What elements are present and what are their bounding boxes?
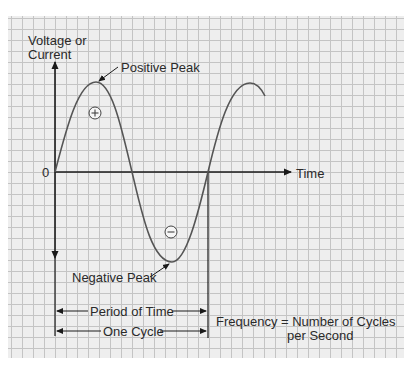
- y-axis-label-line2: Current: [28, 47, 71, 62]
- y-axis-label-line1: Voltage or: [28, 33, 87, 48]
- period-label: Period of Time: [90, 304, 174, 319]
- positive-peak-pointer: [99, 67, 118, 81]
- positive-peak-label: Positive Peak: [121, 60, 200, 75]
- frequency-label-line1: Frequency = Number of Cycles: [216, 314, 396, 329]
- time-axis-label: Time: [296, 166, 324, 181]
- negative-peak-label: Negative Peak: [72, 270, 157, 285]
- sine-wave-diagram: Voltage or Current Positive Peak 0 Time …: [0, 0, 411, 373]
- origin-label: 0: [42, 165, 49, 180]
- cycle-label: One Cycle: [103, 324, 164, 339]
- frequency-label-line2: per Second: [287, 328, 354, 343]
